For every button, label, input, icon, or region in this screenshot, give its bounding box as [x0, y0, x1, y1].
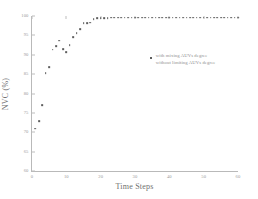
data-point [206, 17, 208, 19]
y-tick-mark [32, 112, 35, 113]
x-tick-label: 10 [64, 171, 69, 179]
data-point [162, 17, 164, 19]
data-point [155, 17, 157, 19]
x-tick-label: 0 [31, 171, 33, 179]
legend-item-1: without limiting AUVs degree [156, 61, 216, 66]
y-tick-mark [32, 35, 35, 36]
data-point [134, 17, 136, 19]
y-tick-label: 80 [24, 91, 32, 96]
data-point [230, 17, 232, 19]
data-point [120, 17, 122, 19]
y-tick-mark [32, 93, 35, 94]
legend-marker-icon [150, 57, 152, 59]
data-point [59, 40, 61, 42]
data-point [79, 28, 81, 30]
data-point [76, 33, 78, 35]
data-point [223, 17, 225, 19]
y-axis-title: NVC (%) [1, 78, 10, 110]
data-point [127, 17, 129, 19]
data-point [114, 17, 116, 19]
y-tick-label: 90 [24, 52, 32, 57]
y-tick-label: 65 [24, 149, 32, 154]
data-point [93, 18, 95, 20]
data-point [158, 17, 160, 19]
data-point [141, 17, 143, 19]
data-point [86, 23, 88, 25]
y-tick-mark [32, 132, 35, 133]
data-point [193, 17, 195, 19]
data-point [189, 17, 191, 19]
data-point [117, 17, 119, 19]
data-point [227, 17, 229, 19]
data-point [65, 51, 67, 53]
data-point [165, 17, 167, 19]
y-tick-mark [32, 151, 35, 152]
data-point [103, 17, 105, 19]
data-point [234, 17, 236, 19]
chart-legend: with mixing AUVs degree without limiting… [150, 54, 216, 66]
x-tick-label: 20 [98, 171, 103, 179]
data-point [52, 49, 54, 51]
data-point [131, 17, 133, 19]
y-tick-label: 95 [24, 33, 32, 38]
data-point [41, 104, 43, 106]
data-point [62, 48, 64, 50]
data-point [48, 66, 50, 68]
y-tick-label: 100 [21, 14, 32, 19]
data-point [213, 17, 215, 19]
x-tick-label: 30 [133, 171, 138, 179]
data-point [217, 17, 219, 19]
y-tick-label: 85 [24, 72, 32, 77]
x-tick-label: 50 [201, 171, 206, 179]
x-tick-label: 60 [236, 171, 241, 179]
y-tick-label: 75 [24, 111, 32, 116]
data-point [179, 17, 181, 19]
data-point [124, 17, 126, 19]
y-tick-label: 70 [24, 130, 32, 135]
data-point [196, 17, 198, 19]
data-point [100, 17, 102, 19]
plot-area: 60657075808590951000102030405060 [31, 16, 238, 172]
x-axis-title: Time Steps [31, 182, 238, 191]
data-point [168, 17, 170, 19]
y-tick-mark [32, 54, 35, 55]
data-point [55, 45, 57, 47]
data-point [144, 17, 146, 19]
y-tick-mark [32, 74, 35, 75]
data-point [151, 17, 153, 19]
chart-figure: 60657075808590951000102030405060 NVC (%)… [0, 0, 258, 199]
data-point [38, 121, 40, 123]
legend-item-0: with mixing AUVs degree [156, 54, 216, 59]
data-point [138, 17, 140, 19]
x-tick-mark [66, 16, 67, 19]
data-point [90, 22, 92, 24]
data-point [182, 17, 184, 19]
data-point [237, 17, 239, 19]
data-point [35, 128, 37, 130]
data-point [107, 17, 109, 19]
data-point [110, 17, 112, 19]
data-point [220, 17, 222, 19]
data-point [45, 72, 47, 74]
data-point [148, 17, 150, 19]
data-point [186, 17, 188, 19]
data-point [199, 17, 201, 19]
data-point [210, 17, 212, 19]
data-point [203, 17, 205, 19]
legend-label-list: with mixing AUVs degree without limiting… [156, 54, 216, 66]
data-point [83, 22, 85, 24]
x-tick-label: 40 [167, 171, 172, 179]
data-point [96, 17, 98, 19]
data-point [72, 36, 74, 38]
data-point [172, 17, 174, 19]
x-tick-mark [32, 16, 33, 19]
data-point [69, 45, 71, 47]
data-point [175, 17, 177, 19]
